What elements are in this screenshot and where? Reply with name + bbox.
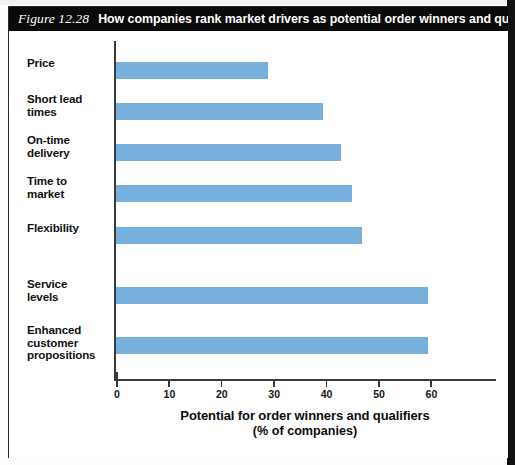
bar	[116, 144, 341, 161]
x-axis-tick	[221, 381, 223, 387]
bar	[116, 103, 323, 120]
x-axis-tick-label: 10	[164, 388, 176, 400]
x-axis-title: Potential for order winners and qualifie…	[114, 408, 496, 438]
x-axis-tick	[273, 381, 275, 387]
x-axis-tick	[168, 381, 170, 387]
bar	[116, 227, 362, 244]
x-axis-tick-label: 60	[426, 388, 438, 400]
x-axis-tick-label: 30	[268, 388, 280, 400]
bar-series	[9, 31, 508, 381]
x-axis-tick	[116, 381, 118, 387]
x-axis-title-line-2: (% of companies)	[114, 424, 496, 438]
figure-container: Figure 12.28 How companies rank market d…	[8, 6, 507, 458]
page-right-edge	[507, 0, 515, 465]
bar	[116, 337, 428, 354]
x-axis-tick-label: 50	[373, 388, 385, 400]
figure-title-bar: Figure 12.28 How companies rank market d…	[9, 7, 508, 31]
bar	[116, 287, 428, 304]
figure-caption: How companies rank market drivers as pot…	[98, 12, 508, 26]
x-axis-tick-label: 0	[114, 388, 120, 400]
figure-number: Figure 12.28	[18, 11, 89, 27]
bar	[116, 62, 268, 79]
page-top-edge	[0, 0, 515, 5]
chart-plot-area: PriceShort leadtimesOn-timedeliveryTime …	[9, 31, 508, 458]
x-axis-tick	[378, 381, 380, 387]
x-axis-title-line-1: Potential for order winners and qualifie…	[114, 408, 496, 423]
bar	[116, 185, 352, 202]
x-axis-tick	[430, 381, 432, 387]
x-axis-tick-label: 40	[321, 388, 333, 400]
x-axis-tick-label: 20	[216, 388, 228, 400]
x-axis-tick	[326, 381, 328, 387]
